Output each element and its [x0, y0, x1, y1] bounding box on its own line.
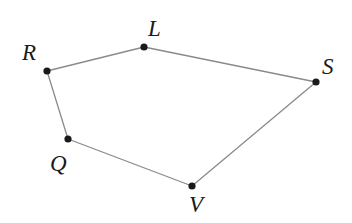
vertex-label-r: R [21, 40, 36, 65]
polygon-diagram-svg: RLSVQ [0, 0, 352, 223]
vertex-label-q: Q [50, 151, 67, 176]
vertex-dot-v [188, 182, 195, 189]
edge-L-S [144, 47, 316, 82]
polygon-edges [47, 47, 316, 186]
vertex-label-l: L [147, 16, 161, 41]
vertex-dot-l [140, 43, 147, 50]
vertex-label-s: S [322, 54, 334, 79]
edge-V-Q [68, 139, 192, 186]
edge-S-V [192, 82, 316, 186]
geometry-figure: RLSVQ [0, 0, 352, 223]
edge-R-L [47, 47, 144, 71]
vertex-label-v: V [189, 192, 206, 217]
vertex-dot-s [312, 78, 319, 85]
polygon-vertices [43, 43, 319, 189]
polygon-vertex-labels: RLSVQ [21, 16, 334, 217]
edge-Q-R [47, 71, 68, 139]
vertex-dot-r [43, 67, 50, 74]
vertex-dot-q [64, 135, 71, 142]
